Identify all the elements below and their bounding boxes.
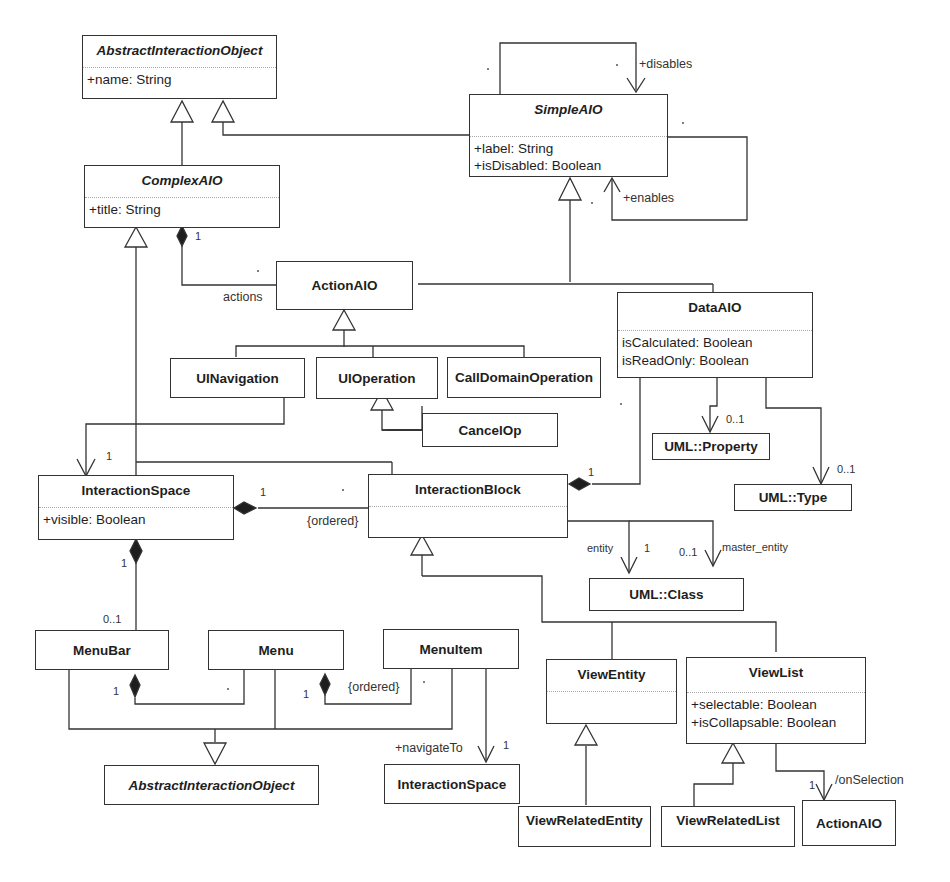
- multiplicity: 1: [121, 557, 127, 569]
- class-attribute: isReadOnly: Boolean: [618, 351, 812, 369]
- class-name: UML::Property: [653, 434, 769, 459]
- multiplicity-many: [616, 64, 618, 66]
- class-attribute: +isCollapsable: Boolean: [687, 713, 865, 731]
- multiplicity: 1: [503, 739, 509, 751]
- class-ui-navigation[interactable]: UINavigation: [170, 358, 305, 398]
- divider: [369, 506, 567, 507]
- class-view-list[interactable]: ViewList +selectable: Boolean +isCollaps…: [686, 657, 866, 744]
- multiplicity: 1: [588, 466, 594, 478]
- class-name: MenuBar: [36, 631, 168, 669]
- class-simple-aio[interactable]: SimpleAIO +label: String +isDisabled: Bo…: [469, 94, 668, 177]
- multiplicity-many: [257, 270, 259, 272]
- class-name: SimpleAIO: [470, 95, 667, 122]
- class-name: ViewRelatedList: [662, 807, 794, 846]
- multiplicity: 0..1: [679, 546, 697, 558]
- class-call-domain-operation[interactable]: CallDomainOperation: [447, 357, 601, 398]
- role-navigate-to: +navigateTo: [395, 741, 463, 755]
- class-cancel-op[interactable]: CancelOp: [422, 413, 558, 447]
- class-name: ActionAIO: [803, 801, 895, 845]
- class-name: DataAIO: [618, 293, 812, 320]
- multiplicity: 1: [809, 779, 815, 791]
- class-uml-property[interactable]: UML::Property: [652, 433, 770, 460]
- class-attribute: +isDisabled: Boolean: [470, 157, 667, 174]
- class-action-aio[interactable]: ActionAIO: [276, 261, 413, 310]
- divider: [547, 691, 676, 692]
- multiplicity: 1: [106, 450, 112, 462]
- multiplicity-many: [423, 681, 425, 683]
- class-name: InteractionSpace: [385, 765, 519, 803]
- class-name: Menu: [209, 631, 343, 669]
- uml-class-diagram: AbstractInteractionObject +name: String …: [0, 0, 950, 882]
- class-name: MenuItem: [384, 630, 518, 668]
- role-entity: entity: [587, 542, 613, 554]
- class-attribute: +selectable: Boolean: [687, 693, 865, 713]
- class-name: InteractionSpace: [39, 476, 233, 503]
- multiplicity-many: [342, 489, 344, 491]
- class-ui-operation[interactable]: UIOperation: [316, 357, 438, 399]
- class-name: ComplexAIO: [85, 166, 279, 193]
- class-name: UIOperation: [317, 358, 437, 398]
- multiplicity: 1: [113, 685, 119, 697]
- class-abstract-interaction-object[interactable]: AbstractInteractionObject +name: String: [82, 35, 277, 99]
- role-actions: actions: [223, 290, 263, 304]
- multiplicity-many: [227, 688, 229, 690]
- class-name: AbstractInteractionObject: [105, 766, 318, 804]
- class-action-aio-ref[interactable]: ActionAIO: [802, 800, 896, 846]
- class-name: ViewRelatedEntity: [519, 807, 650, 846]
- role-on-selection: /onSelection: [835, 773, 904, 787]
- class-attribute: isCalculated: Boolean: [618, 331, 812, 351]
- class-attribute: +visible: Boolean: [39, 508, 233, 528]
- multiplicity: 1: [644, 542, 650, 554]
- multiplicity: 1: [303, 688, 309, 700]
- multiplicity: 1: [260, 486, 266, 498]
- class-menu-bar[interactable]: MenuBar: [35, 630, 169, 670]
- class-view-related-entity[interactable]: ViewRelatedEntity: [518, 806, 651, 847]
- class-interaction-block[interactable]: InteractionBlock: [368, 474, 568, 538]
- class-name: ViewEntity: [547, 660, 676, 687]
- multiplicity: 0..1: [726, 413, 744, 425]
- class-name: InteractionBlock: [369, 475, 567, 502]
- class-attribute: +label: String: [470, 137, 667, 157]
- class-menu-item[interactable]: MenuItem: [383, 629, 519, 669]
- multiplicity-many: [682, 122, 684, 124]
- constraint-ordered: {ordered}: [307, 514, 358, 528]
- role-disables: +disables: [639, 57, 692, 71]
- class-data-aio[interactable]: DataAIO isCalculated: Boolean isReadOnly…: [617, 292, 813, 378]
- role-enables: +enables: [623, 191, 674, 205]
- class-attribute: +title: String: [85, 198, 279, 218]
- class-interaction-space[interactable]: InteractionSpace +visible: Boolean: [38, 475, 234, 540]
- constraint-ordered: {ordered}: [348, 680, 399, 694]
- class-name: CancelOp: [423, 414, 557, 446]
- class-uml-type[interactable]: UML::Type: [734, 484, 852, 511]
- class-complex-aio[interactable]: ComplexAIO +title: String: [84, 165, 280, 228]
- class-name: ViewList: [687, 658, 865, 685]
- multiplicity: 0..1: [103, 613, 121, 625]
- class-name: UML::Type: [735, 485, 851, 510]
- class-view-related-list[interactable]: ViewRelatedList: [661, 806, 795, 847]
- multiplicity-many: [620, 403, 622, 405]
- class-attribute: +name: String: [83, 68, 276, 88]
- class-abstract-interaction-object-ref[interactable]: AbstractInteractionObject: [104, 765, 319, 805]
- role-master-entity: master_entity: [722, 541, 788, 553]
- class-name: CallDomainOperation: [448, 358, 600, 397]
- class-uml-class[interactable]: UML::Class: [589, 578, 744, 611]
- multiplicity-many: [487, 68, 489, 70]
- multiplicity: 0..1: [837, 463, 855, 475]
- class-view-entity[interactable]: ViewEntity: [546, 659, 677, 724]
- class-name: AbstractInteractionObject: [83, 36, 276, 63]
- class-interaction-space-ref[interactable]: InteractionSpace: [384, 764, 520, 804]
- multiplicity-many: [591, 202, 593, 204]
- class-menu[interactable]: Menu: [208, 630, 344, 670]
- class-name: UINavigation: [171, 359, 304, 397]
- class-name: ActionAIO: [277, 262, 412, 309]
- multiplicity: 1: [195, 230, 201, 242]
- class-name: UML::Class: [590, 579, 743, 610]
